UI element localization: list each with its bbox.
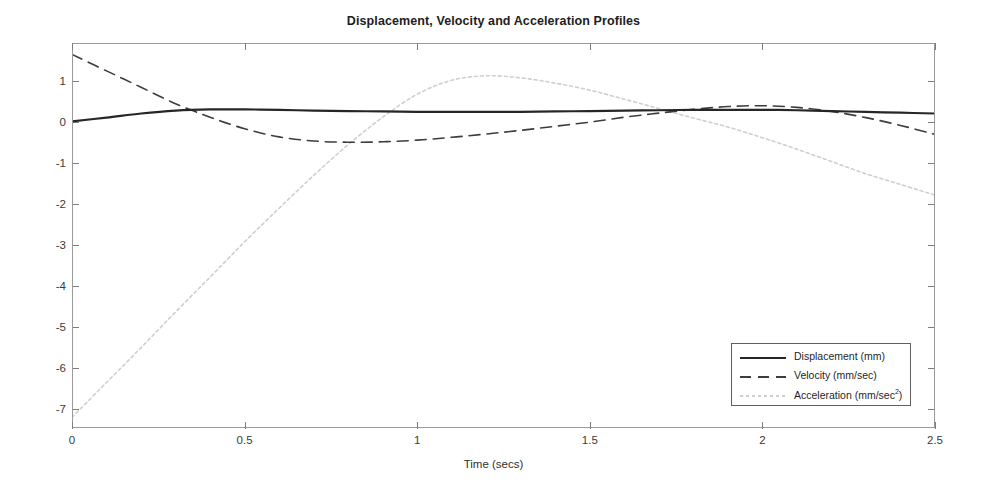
x-tick-label: 0 <box>42 434 102 446</box>
legend-item: Velocity (mm/sec) <box>732 367 912 387</box>
y-tick-label: -6 <box>32 362 66 374</box>
x-axis-tick-marks <box>72 421 935 429</box>
y-tick-label: -1 <box>32 157 66 169</box>
y-tick-label: 1 <box>32 75 66 87</box>
x-tick-label: 2.5 <box>905 434 965 446</box>
series-line-dashed <box>72 54 935 142</box>
x-tick-mark-top <box>935 43 936 50</box>
legend-item: Displacement (mm) <box>732 348 912 368</box>
series-line-solid <box>72 109 935 121</box>
x-axis-tick-marks-top <box>72 43 935 51</box>
legend-line-sample <box>740 395 786 397</box>
y-tick-label: -3 <box>32 239 66 251</box>
x-tick-mark <box>72 422 73 429</box>
legend-label: Velocity (mm/sec) <box>794 369 877 381</box>
y-tick-label: -7 <box>32 403 66 415</box>
legend-item: Acceleration (mm/sec2) <box>732 386 912 406</box>
x-tick-mark <box>590 422 591 429</box>
chart-legend: Displacement (mm)Velocity (mm/sec)Accele… <box>731 343 911 406</box>
x-tick-mark-top <box>417 43 418 50</box>
x-tick-label: 1 <box>387 434 447 446</box>
y-tick-label: -2 <box>32 198 66 210</box>
chart-title: Displacement, Velocity and Acceleration … <box>0 14 987 28</box>
x-tick-mark-top <box>590 43 591 50</box>
y-tick-label: -5 <box>32 321 66 333</box>
x-tick-mark-top <box>762 43 763 50</box>
x-axis-label: Time (secs) <box>0 458 987 470</box>
x-tick-mark <box>762 422 763 429</box>
x-axis-tick-labels: 00.511.522.5 <box>72 434 935 456</box>
chart-canvas: Displacement, Velocity and Acceleration … <box>0 0 987 502</box>
y-tick-label: 0 <box>32 116 66 128</box>
x-tick-mark <box>935 422 936 429</box>
x-tick-mark-top <box>72 43 73 50</box>
legend-label: Displacement (mm) <box>794 350 885 362</box>
x-tick-mark <box>245 422 246 429</box>
x-tick-label: 2 <box>732 434 792 446</box>
x-tick-mark <box>417 422 418 429</box>
x-tick-label: 1.5 <box>560 434 620 446</box>
x-tick-mark-top <box>245 43 246 50</box>
y-axis-tick-labels: 10-1-2-3-4-5-6-7 <box>24 43 66 428</box>
y-tick-label: -4 <box>32 280 66 292</box>
legend-label: Acceleration (mm/sec2) <box>794 388 902 401</box>
x-tick-label: 0.5 <box>215 434 275 446</box>
legend-line-sample <box>740 376 786 378</box>
legend-line-sample <box>740 357 786 359</box>
